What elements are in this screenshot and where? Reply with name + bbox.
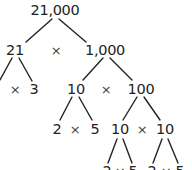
branch-root-right: [59, 19, 86, 42]
branch-10a-right: [123, 139, 132, 163]
node-1000: 1,000: [85, 43, 125, 58]
times-sign: ×: [115, 165, 126, 170]
branch-21-right: [19, 58, 32, 81]
branch-1000-right: [110, 58, 132, 80]
node-5: 5: [176, 164, 185, 170]
branch-10-left: [60, 97, 72, 120]
node-2: 2: [103, 164, 112, 170]
node-5: 5: [91, 122, 100, 137]
factor-tree: 21,000 21 × 1,000 7 × 3 10 × 100 2 × 5 1…: [0, 0, 192, 170]
node-100: 100: [128, 82, 155, 97]
root-node: 21,000: [31, 3, 80, 18]
times-sign: ×: [51, 44, 62, 57]
branch-10b-left: [153, 139, 162, 163]
branch-10b-right: [168, 139, 178, 163]
node-5: 5: [129, 164, 138, 170]
times-sign: ×: [161, 165, 172, 170]
times-sign: ×: [10, 83, 21, 96]
times-sign: ×: [70, 123, 81, 136]
times-sign: ×: [137, 123, 148, 136]
node-2: 2: [148, 164, 157, 170]
node-2: 2: [53, 122, 62, 137]
branch-100-left: [123, 97, 137, 120]
node-3: 3: [30, 82, 39, 97]
node-21: 21: [6, 43, 24, 58]
branch-root-left: [26, 19, 52, 42]
node-10-b: 10: [156, 122, 174, 137]
branch-21-left: [0, 58, 12, 80]
branch-10a-left: [108, 139, 117, 163]
branch-10-right: [79, 97, 92, 120]
node-10-a: 10: [111, 122, 129, 137]
node-10: 10: [67, 82, 85, 97]
times-sign: ×: [101, 83, 112, 96]
branch-1000-left: [83, 58, 103, 80]
branch-100-right: [144, 97, 160, 120]
